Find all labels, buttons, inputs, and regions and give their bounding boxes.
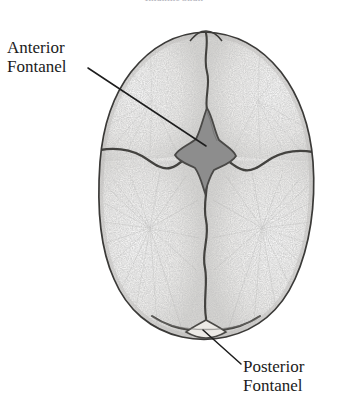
label-anterior-line2: Fontanel: [7, 57, 67, 76]
label-anterior-line1: Anterior: [7, 38, 67, 57]
label-anterior-fontanel: Anterior Fontanel: [7, 38, 67, 76]
label-posterior-fontanel: Posterior Fontanel: [243, 357, 304, 395]
skull-bone-group: [90, 25, 325, 350]
label-posterior-line1: Posterior: [243, 357, 304, 376]
anatomical-figure: Infantile Skull: [0, 0, 348, 412]
label-posterior-line2: Fontanel: [243, 376, 304, 395]
